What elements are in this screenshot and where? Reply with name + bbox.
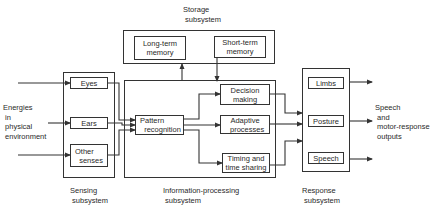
timing-time-sharing-block: Timing andtime sharing — [222, 153, 270, 173]
limbs-block: Limbs — [308, 77, 344, 89]
outputs-label: Speech and motor-response outputs — [375, 103, 430, 141]
storage-subsystem-label: Storage subsystem — [183, 5, 221, 24]
response-subsystem-label: Response subsystem — [302, 186, 340, 205]
ears-block: Ears — [70, 117, 108, 129]
posture-block: Posture — [308, 115, 344, 127]
sensing-subsystem-label: Sensing subsystem — [70, 186, 108, 205]
decision-making-block: Decisionmaking — [220, 84, 270, 105]
energies-input-label: Energies in physical environment — [3, 103, 46, 141]
pattern-recognition-block: Pattern recognition — [135, 115, 184, 135]
other-senses-block: Other senses — [70, 144, 108, 167]
speech-block: Speech — [308, 152, 344, 164]
adaptive-processes-block: Adaptive processes — [220, 115, 270, 134]
short-term-memory-block: Short-termmemory — [214, 36, 266, 58]
processing-subsystem-label: Information-processing subsystem — [163, 186, 239, 205]
eyes-block: Eyes — [70, 77, 108, 89]
long-term-memory-block: Long-termmemory — [134, 36, 186, 60]
